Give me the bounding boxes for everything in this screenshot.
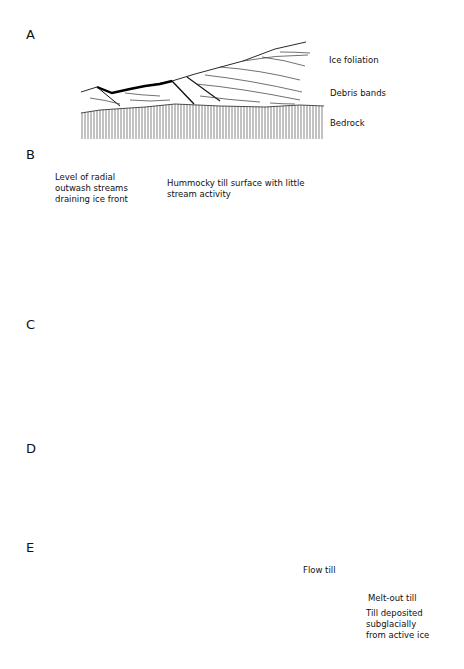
label-debris-bands: Debris bands bbox=[330, 88, 386, 99]
label-meltout-till: Melt-out till bbox=[368, 593, 417, 604]
label-hummocky-line2: stream activity bbox=[167, 189, 231, 200]
label-ice-foliation: Ice foliation bbox=[329, 55, 379, 66]
label-level-line2: outwash streams bbox=[55, 183, 128, 194]
label-bedrock: Bedrock bbox=[330, 118, 365, 129]
panel-a-drawing bbox=[81, 42, 324, 139]
bedrock-a bbox=[81, 104, 324, 139]
label-subglacial-line2: subglacially bbox=[366, 619, 416, 630]
panel-letter-a: A bbox=[26, 27, 35, 42]
label-level-line1: Level of radial bbox=[55, 172, 115, 183]
label-hummocky-line1: Hummocky till surface with little bbox=[167, 178, 305, 189]
diagram-canvas bbox=[0, 0, 464, 669]
panel-letter-d: D bbox=[26, 441, 36, 456]
label-subglacial-line3: from active ice bbox=[366, 630, 429, 641]
label-level-line3: draining ice front bbox=[55, 194, 128, 205]
panel-letter-c: C bbox=[26, 317, 35, 332]
panel-letter-b: B bbox=[26, 147, 35, 162]
panel-letter-e: E bbox=[26, 540, 34, 555]
label-subglacial-line1: Till deposited bbox=[366, 608, 423, 619]
label-flow-till: Flow till bbox=[303, 565, 336, 576]
